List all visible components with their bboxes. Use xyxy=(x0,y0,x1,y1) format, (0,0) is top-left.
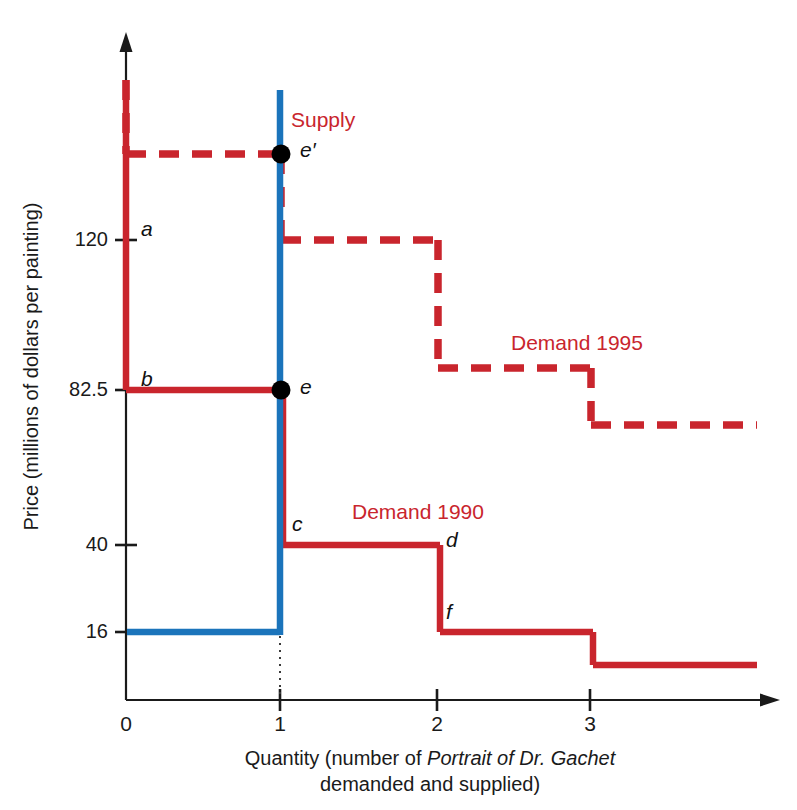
supply-curve-label: Supply xyxy=(291,108,355,132)
x-axis-title-line2: demanded and supplied) xyxy=(320,773,540,795)
x-tick-label-0: 0 xyxy=(106,712,146,736)
y-axis-arrow-icon xyxy=(120,32,133,52)
x-axis-title-artwork: Portrait of Dr. Gachet xyxy=(427,747,615,769)
demand-1990-curve xyxy=(126,80,757,665)
point-label-c: c xyxy=(292,512,303,536)
demand-1995-curve xyxy=(126,80,757,425)
x-tick-label-1: 1 xyxy=(260,712,300,736)
supply-curve xyxy=(127,90,280,635)
x-axis-title: Quantity (number of Portrait of Dr. Gach… xyxy=(120,745,740,797)
point-label-e-prime: e′ xyxy=(300,138,316,162)
marker-point-e-prime xyxy=(272,145,291,164)
x-tick-label-3: 3 xyxy=(570,712,610,736)
point-label-d: d xyxy=(446,528,458,552)
chart-canvas xyxy=(0,0,797,810)
economics-supply-demand-figure: Price (millions of dollars per painting)… xyxy=(0,0,797,810)
x-axis-arrow-icon xyxy=(760,694,780,707)
demand-1990-curve-label: Demand 1990 xyxy=(352,500,484,524)
point-label-a: a xyxy=(141,217,153,241)
y-tick-label-16: 16 xyxy=(24,620,108,643)
y-tick-label-82-5: 82.5 xyxy=(24,378,108,401)
x-tick-label-2: 2 xyxy=(417,712,457,736)
y-tick-label-40: 40 xyxy=(24,533,108,556)
x-axis-title-prefix: Quantity (number of xyxy=(245,747,427,769)
y-axis-title: Price (millions of dollars per painting) xyxy=(20,132,43,602)
marker-point-e xyxy=(272,381,291,400)
point-label-f: f xyxy=(446,600,452,624)
demand-1995-curve-label: Demand 1995 xyxy=(511,331,643,355)
point-label-b: b xyxy=(141,367,153,391)
y-tick-label-120: 120 xyxy=(24,228,108,251)
point-label-e: e xyxy=(300,375,312,399)
